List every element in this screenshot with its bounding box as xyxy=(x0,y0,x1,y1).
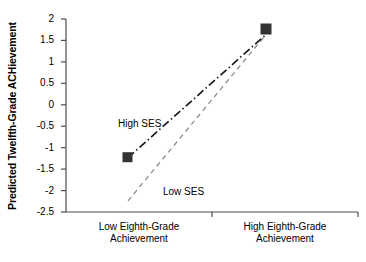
y-tick-label-2: 1 xyxy=(18,57,54,67)
y-tick-label-7: -1.5 xyxy=(18,164,54,174)
y-tick-label-9: -2.5 xyxy=(18,207,54,217)
series-line-high-ses xyxy=(128,35,266,158)
y-tick-label-5: -0.5 xyxy=(18,121,54,131)
y-tick-label-6: -1 xyxy=(18,143,54,153)
data-point-marker-low-x xyxy=(123,152,133,162)
y-tick-label-4: 0 xyxy=(18,100,54,110)
y-tick-label-1: 1.5 xyxy=(18,35,54,45)
y-tick-label-3: 0.5 xyxy=(18,78,54,88)
x-tick-label-high-line1: High Eighth-Grade xyxy=(225,221,345,233)
y-tick-label-8: -2 xyxy=(18,186,54,196)
y-axis-ticks xyxy=(61,19,66,212)
x-tick-label-low-line2: Achievement xyxy=(79,233,199,245)
series-annotation-low-ses: Low SES xyxy=(163,186,204,197)
x-tick-label-high: High Eighth-Grade Achievement xyxy=(225,221,345,245)
x-tick-label-high-line2: Achievement xyxy=(225,233,345,245)
x-axis-ticks xyxy=(212,212,358,217)
series-annotation-high-ses: High SES xyxy=(118,118,161,129)
x-tick-label-low-line1: Low Eighth-Grade xyxy=(79,221,199,233)
y-tick-label-0: 2 xyxy=(18,14,54,24)
x-tick-label-low: Low Eighth-Grade Achievement xyxy=(79,221,199,245)
chart-figure: Predicted Twelfth-Grade ACHievement xyxy=(0,0,366,262)
data-point-marker-high-x xyxy=(261,24,272,35)
